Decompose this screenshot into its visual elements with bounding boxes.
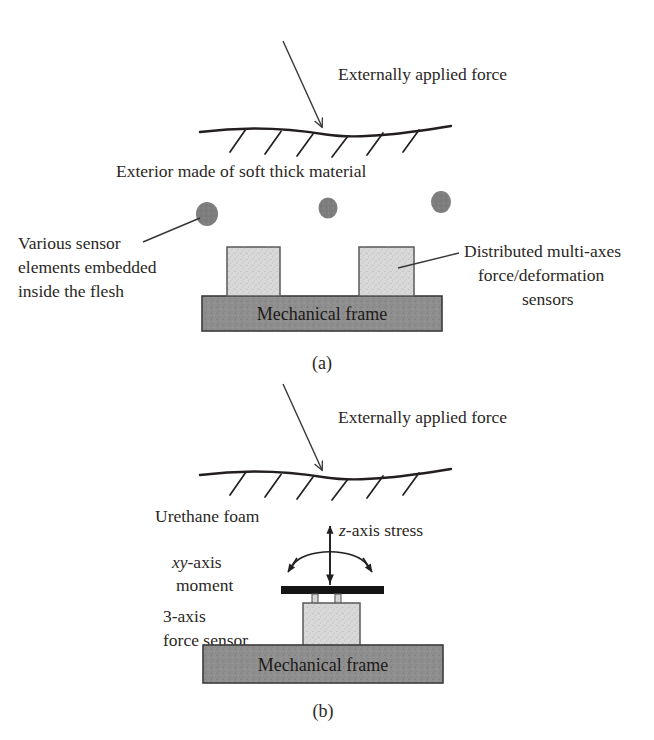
svg-text:Various sensor: Various sensor <box>18 233 121 253</box>
mechanical-frame-label-b: Mechanical frame <box>258 655 388 675</box>
svg-text:sensors: sensors <box>522 289 574 309</box>
mechanical-frame-label-a: Mechanical frame <box>257 304 387 324</box>
force-sensor-block-a-1 <box>227 247 280 296</box>
z-axis-stress-label: z-axis stress <box>338 520 423 540</box>
svg-text:elements embedded: elements embedded <box>18 257 157 277</box>
applied-force-label-a: Externally applied force <box>338 64 507 84</box>
panel-a-caption: (a) <box>312 353 332 374</box>
three-axis-force-sensor-block <box>303 603 360 646</box>
sensor-structure-figure: Externally applied force Exterior made o… <box>0 0 654 740</box>
force-sensor-block-a-2 <box>359 247 414 296</box>
sensor-dot-1 <box>196 202 218 226</box>
z-axis-stress-label-rest: -axis stress <box>346 520 423 540</box>
sensor-dot-3 <box>431 191 451 213</box>
load-plate <box>281 586 384 594</box>
svg-text:force/deformation: force/deformation <box>478 265 605 285</box>
svg-text:Distributed multi-axes: Distributed multi-axes <box>464 241 621 261</box>
figure-container: Externally applied force Exterior made o… <box>0 0 654 740</box>
svg-text:3-axis: 3-axis <box>163 606 206 626</box>
exterior-material-label: Exterior made of soft thick material <box>116 161 366 181</box>
sensor-dot-2 <box>319 198 338 219</box>
applied-force-label-b: Externally applied force <box>338 407 507 427</box>
z-axis-stress-label-italic: z <box>338 520 346 540</box>
xy-moment-label-italic: xy <box>171 552 188 572</box>
panel-b-caption: (b) <box>313 701 334 722</box>
urethane-foam-label: Urethane foam <box>155 506 260 526</box>
xy-moment-label-rest: -axis <box>188 552 222 572</box>
xy-moment-label-line2: moment <box>176 575 233 595</box>
svg-text:inside the flesh: inside the flesh <box>18 281 124 301</box>
svg-text:xy-axis: xy-axis <box>171 552 222 572</box>
